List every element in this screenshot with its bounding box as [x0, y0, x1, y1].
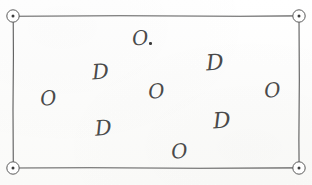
- glyph-letter-o: O: [39, 87, 58, 109]
- glyph-letter-o: O: [131, 27, 149, 49]
- glyph-letter-o: O: [170, 140, 188, 161]
- glyph-letter-d: D: [205, 51, 224, 74]
- glyph-letter-d: D: [94, 117, 113, 139]
- glyph-letter-o: O: [263, 79, 281, 100]
- corner-marker-top-left: [7, 10, 19, 22]
- glyph-letter-o: O: [147, 80, 165, 101]
- figure-canvas: ODDOOODDO: [0, 0, 312, 185]
- glyph-letter-d: D: [91, 61, 109, 83]
- glyph-period-dot: [149, 42, 152, 45]
- corner-marker-top-right: [293, 10, 305, 22]
- corner-marker-bottom-right: [293, 162, 305, 174]
- glyph-letter-d: D: [212, 109, 231, 132]
- corner-marker-bottom-left: [7, 162, 19, 174]
